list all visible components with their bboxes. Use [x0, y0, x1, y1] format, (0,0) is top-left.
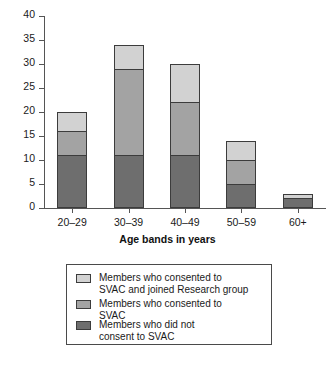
y-axis-tick-label: 5 [29, 177, 35, 187]
legend: Members who consented to SVAC and joined… [66, 264, 272, 345]
bar-segment [226, 184, 256, 208]
y-axis-tick-label: 35 [23, 33, 35, 43]
bar-stack [283, 194, 313, 208]
bar-segment [170, 155, 200, 208]
bar-segment [57, 155, 87, 208]
legend-item: Members who consented to SVAC and joined… [76, 272, 248, 295]
x-axis-tick-mark [72, 208, 73, 213]
bar-segment [57, 131, 87, 155]
x-axis-tick-label: 30–39 [99, 216, 159, 228]
bar-stack [170, 64, 200, 208]
legend-item: Members who consented to SVAC [76, 298, 222, 321]
legend-item: Members who did not consent to SVAC [76, 319, 195, 342]
y-axis-tick-label: 15 [23, 129, 35, 139]
bar-segment [114, 45, 144, 69]
bar-segment [114, 155, 144, 208]
legend-swatch [76, 274, 91, 283]
legend-label: Members who consented to SVAC [99, 298, 222, 321]
bar-segment [114, 69, 144, 155]
y-axis-tick-label: 20 [23, 105, 35, 115]
bar-stack [57, 112, 87, 208]
x-axis-tick-label: 20–29 [42, 216, 102, 228]
bar-stack [226, 141, 256, 208]
legend-swatch [76, 321, 91, 330]
bar-stack [114, 45, 144, 208]
y-axis-tick-label: 0 [29, 201, 35, 211]
x-axis-tick-mark [185, 208, 186, 213]
stacked-bar-chart: 0510152025303540 20–2930–3940–4950–5960+… [0, 0, 335, 370]
bar-segment [170, 102, 200, 155]
legend-label: Members who consented to SVAC and joined… [99, 272, 248, 295]
bar-segment [226, 141, 256, 160]
x-axis-tick-mark [129, 208, 130, 213]
bars-layer [44, 16, 326, 208]
x-axis-title: Age bands in years [0, 233, 335, 245]
legend-label: Members who did not consent to SVAC [99, 319, 195, 342]
y-axis-tick-label: 40 [23, 9, 35, 19]
x-axis-tick-mark [298, 208, 299, 213]
legend-swatch [76, 300, 91, 309]
y-axis-tick-label: 10 [23, 153, 35, 163]
y-axis-tick-label: 30 [23, 57, 35, 67]
y-axis-tick-label: 25 [23, 81, 35, 91]
bar-segment [170, 64, 200, 102]
x-axis-tick-label: 40–49 [155, 216, 215, 228]
x-axis-tick-mark [241, 208, 242, 213]
bar-segment [226, 160, 256, 184]
bar-segment [283, 198, 313, 208]
x-axis-tick-label: 60+ [268, 216, 328, 228]
y-axis-tick-mark [39, 208, 44, 209]
x-axis-tick-label: 50–59 [211, 216, 271, 228]
bar-segment [57, 112, 87, 131]
